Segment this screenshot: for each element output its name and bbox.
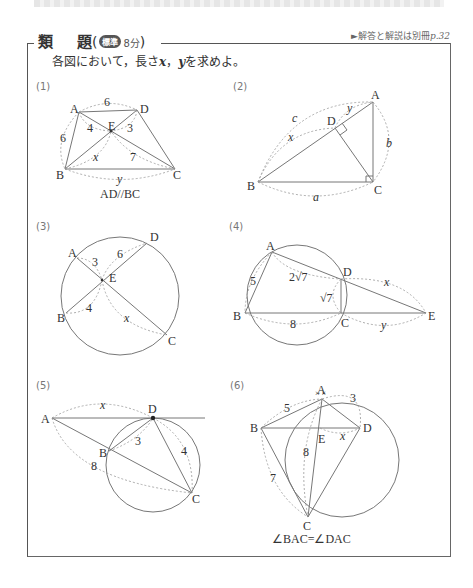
svg-text:B: B [57, 311, 65, 325]
svg-text:C: C [303, 519, 311, 533]
svg-text:B: B [56, 168, 64, 182]
svg-text:x: x [339, 429, 346, 443]
svg-text:2√7: 2√7 [289, 270, 308, 284]
svg-text:x: x [383, 275, 390, 289]
svg-text:D: D [363, 421, 372, 435]
svg-text:√7: √7 [320, 291, 333, 305]
figure-6-caption: ∠BAC=∠DAC [272, 532, 351, 547]
figure-6: × × A B D E C 5 3 7 8 x [250, 383, 399, 533]
svg-text:x: x [92, 150, 99, 164]
svg-text:C: C [341, 316, 349, 330]
svg-text:8: 8 [303, 445, 309, 459]
svg-text:E: E [108, 119, 115, 133]
svg-text:4: 4 [181, 444, 187, 458]
svg-text:B: B [247, 179, 255, 193]
svg-text:E: E [109, 271, 116, 285]
svg-text:y: y [380, 318, 387, 332]
svg-text:D: D [148, 402, 157, 416]
svg-text:5: 5 [250, 274, 256, 288]
figure-5: A D B C x 3 4 8 [41, 398, 205, 512]
svg-text:A: A [317, 383, 326, 397]
svg-text:6: 6 [104, 95, 110, 109]
svg-text:y: y [116, 172, 123, 186]
svg-text:4: 4 [87, 121, 93, 135]
svg-text:x: x [99, 398, 106, 412]
figure-1: A D E B C 6 6 4 3 7 x y [56, 95, 181, 186]
svg-text:A: A [371, 88, 380, 102]
svg-text:B: B [99, 446, 107, 460]
svg-text:D: D [140, 102, 149, 116]
svg-text:y: y [346, 101, 353, 115]
svg-text:3: 3 [135, 434, 141, 448]
svg-text:A: A [68, 246, 77, 260]
svg-text:b: b [386, 136, 392, 150]
svg-text:C: C [192, 492, 200, 506]
svg-text:x: x [123, 311, 130, 325]
svg-text:4: 4 [86, 301, 92, 315]
svg-text:7: 7 [270, 471, 276, 485]
figure-2: A D B C c b a x y [247, 88, 392, 204]
svg-text:c: c [292, 111, 298, 125]
svg-text:3: 3 [92, 255, 98, 269]
svg-text:a: a [313, 190, 319, 204]
svg-text:B: B [250, 421, 258, 435]
svg-text:B: B [233, 309, 241, 323]
svg-text:8: 8 [290, 317, 296, 331]
figure-4: A D B C E 5 2√7 √7 8 x y [233, 239, 435, 345]
svg-text:E: E [318, 432, 325, 446]
figure-1-caption: AD//BC [100, 187, 140, 202]
svg-text:D: D [343, 265, 352, 279]
geometry-figures: A D E B C 6 6 4 3 7 x y A D B C c b a x … [0, 0, 473, 588]
svg-text:D: D [327, 114, 336, 128]
svg-text:6: 6 [60, 131, 66, 145]
svg-text:A: A [266, 239, 275, 253]
svg-text:6: 6 [117, 247, 123, 261]
svg-text:3: 3 [350, 391, 356, 405]
svg-text:x: x [287, 130, 294, 144]
svg-text:8: 8 [91, 459, 97, 473]
svg-text:7: 7 [130, 150, 136, 164]
svg-text:3: 3 [127, 121, 133, 135]
svg-text:5: 5 [284, 401, 290, 415]
svg-text:D: D [150, 230, 159, 244]
svg-text:C: C [168, 334, 176, 348]
svg-text:A: A [41, 412, 50, 426]
svg-text:C: C [173, 168, 181, 182]
figure-3: A D E B C 3 6 4 x [57, 230, 179, 355]
svg-text:A: A [70, 102, 79, 116]
svg-text:C: C [374, 183, 382, 197]
svg-text:E: E [428, 309, 435, 323]
